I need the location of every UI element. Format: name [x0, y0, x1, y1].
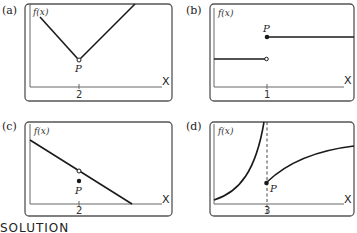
- point-label: P: [269, 183, 277, 194]
- panel-d: (d) f(x) X 3 P: [186, 120, 354, 216]
- panel-b-label: (b): [186, 4, 202, 17]
- y-axis-label: f(x): [217, 8, 234, 18]
- left-arm: [40, 17, 78, 59]
- point-label: P: [262, 23, 270, 34]
- panel-d-label: (d): [186, 120, 202, 133]
- right-branch-curve: [267, 146, 354, 182]
- open-circle: [77, 169, 81, 173]
- panel-a-frame: [25, 4, 172, 101]
- filled-dot: [265, 35, 270, 40]
- panel-b: (b) f(x) X 1 P: [186, 4, 354, 101]
- panel-c-frame: [25, 122, 172, 216]
- filled-dot: [264, 181, 269, 186]
- panel-c-label: (c): [2, 120, 17, 133]
- y-axis-label: f(x): [217, 126, 234, 136]
- filled-dot: [77, 179, 81, 183]
- tick-label: 2: [76, 89, 82, 100]
- tick-label: 3: [264, 205, 270, 216]
- panel-b-frame: [210, 4, 354, 101]
- right-arm: [81, 4, 136, 59]
- point-label: P: [74, 63, 82, 74]
- x-axis-label: X: [162, 193, 170, 206]
- tick-label: 2: [76, 205, 82, 216]
- solution-heading: SOLUTION: [0, 222, 69, 233]
- y-axis-label: f(x): [32, 7, 49, 17]
- panel-a-label: (a): [2, 4, 17, 17]
- panel-d-frame: [210, 122, 354, 216]
- panel-a: (a) f(x) X 2 P: [2, 4, 172, 101]
- panel-c: (c) f(x) X 2 P: [2, 120, 172, 216]
- x-axis-label: X: [162, 75, 170, 88]
- point-label: P: [74, 185, 82, 196]
- x-axis-label: X: [344, 74, 352, 87]
- figure-canvas: (a) f(x) X 2 P (b) f(x) X 1 P (c) f(x): [0, 0, 357, 233]
- open-circle: [77, 58, 81, 62]
- tick-label: 1: [264, 89, 270, 100]
- y-axis-label: f(x): [33, 126, 50, 136]
- open-circle: [265, 57, 269, 61]
- x-axis-label: X: [344, 193, 352, 206]
